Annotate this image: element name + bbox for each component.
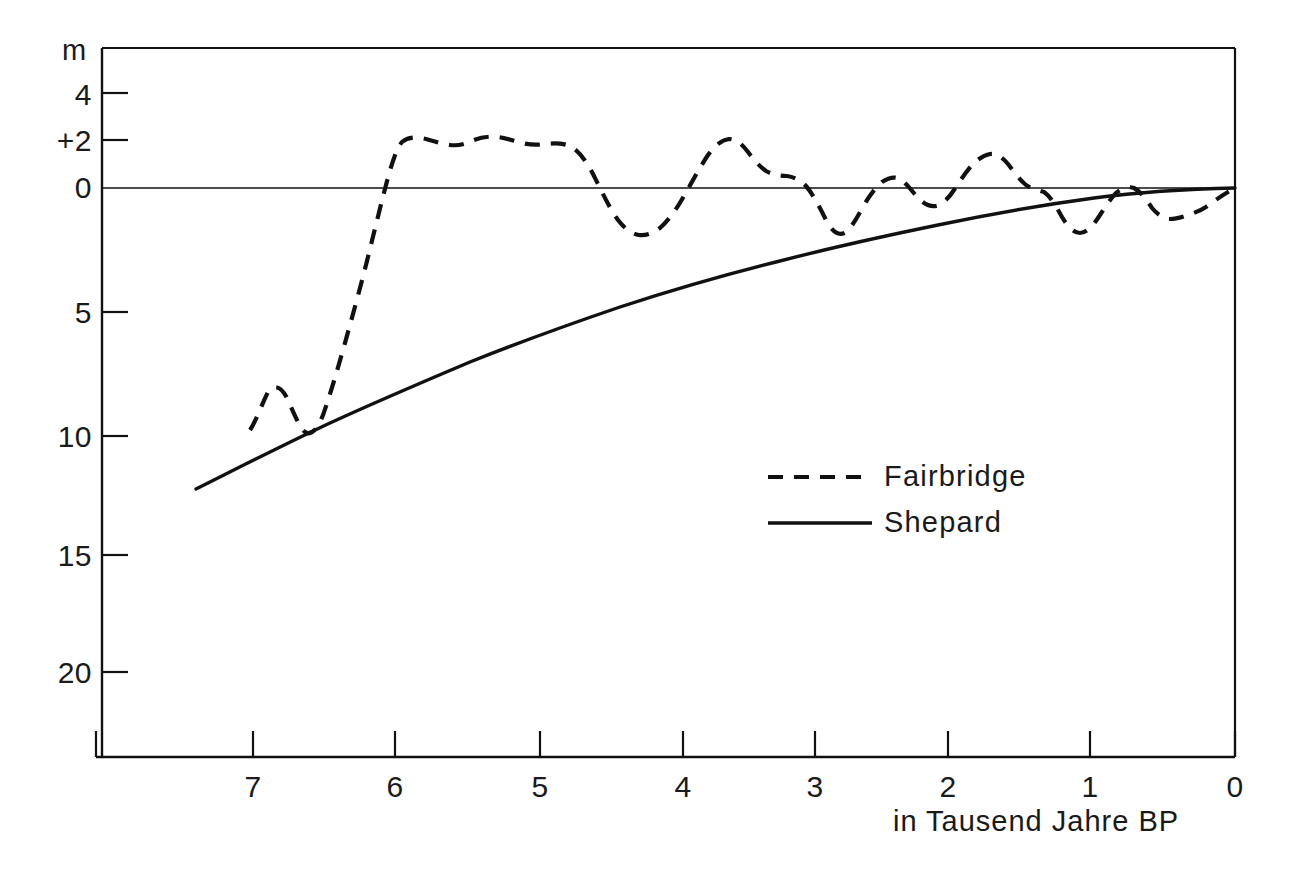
y-axis-unit-label: m <box>62 34 87 67</box>
legend-label-fairbridge: Fairbridge <box>884 460 1027 493</box>
y-tick-label-15: 15 <box>28 539 92 573</box>
x-axis-title: in Tausend Jahre BP <box>893 805 1179 838</box>
x-tick-label-1: 1 <box>1070 770 1110 804</box>
x-tick-label-4: 4 <box>663 770 703 804</box>
y-axis-ticks <box>102 93 128 672</box>
x-tick-label-7: 7 <box>233 770 273 804</box>
plot-frame <box>96 48 1235 757</box>
y-tick-label-10: 10 <box>28 420 92 454</box>
x-tick-label-5: 5 <box>520 770 560 804</box>
sea-level-curve-plot <box>0 0 1293 874</box>
legend-swatches <box>768 477 872 523</box>
x-tick-label-3: 3 <box>795 770 835 804</box>
x-tick-label-2: 2 <box>928 770 968 804</box>
chart-figure: m 4 +2 0 5 10 15 20 7 6 5 4 3 2 1 0 in T… <box>0 0 1293 874</box>
y-tick-label-plus2: +2 <box>28 124 92 158</box>
y-tick-label-4: 4 <box>40 78 92 112</box>
x-tick-label-6: 6 <box>375 770 415 804</box>
x-axis-ticks <box>253 731 1090 757</box>
y-tick-label-20: 20 <box>28 656 92 690</box>
x-tick-label-0: 0 <box>1215 770 1255 804</box>
legend-label-shepard: Shepard <box>884 506 1002 539</box>
series-fairbridge-line <box>250 137 1235 434</box>
y-tick-label-0: 0 <box>40 171 92 205</box>
y-tick-label-5: 5 <box>40 296 92 330</box>
